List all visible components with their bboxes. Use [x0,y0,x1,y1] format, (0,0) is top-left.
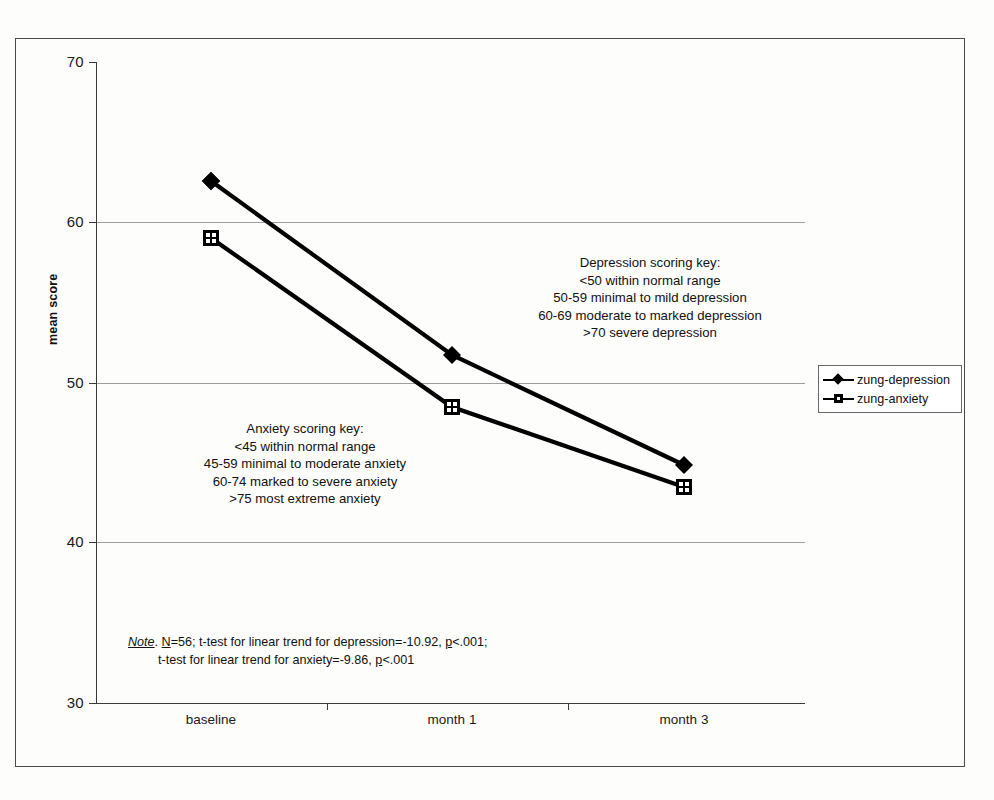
y-tick-40 [89,542,97,543]
depression-key-line-4: 60-69 moderate to marked depression [500,307,800,325]
anxiety-key-line-3: 45-59 minimal to moderate anxiety [140,455,470,473]
square-marker-icon [823,392,854,406]
note-line-1-tail: <.001; [452,635,487,649]
note-lead: Note [128,635,155,649]
gridline-60 [96,222,805,223]
depression-key-line-2: <50 within normal range [500,272,800,290]
chart-legend[interactable]: zung-depression zung-anxiety [818,365,962,413]
y-axis-title: mean score [46,225,60,345]
y-tick-60 [89,222,97,223]
legend-item-zung-anxiety[interactable]: zung-anxiety [823,389,958,408]
y-tick-label-30: 30 [38,694,84,711]
legend-label-zung-depression: zung-depression [854,373,950,387]
legend-item-zung-depression[interactable]: zung-depression [823,370,958,389]
depression-scoring-key: Depression scoring key: <50 within norma… [500,254,800,342]
note-line-1-rest: =56; t-test for linear trend for depress… [171,635,445,649]
note-line-2: t-test for linear trend for anxiety=-9.8… [128,651,488,669]
anxiety-key-line-4: 60-74 marked to severe anxiety [140,473,470,491]
note-line-2-tail: <.001 [382,653,414,667]
x-tick-boundary-1 [327,703,328,710]
gridline-50 [96,383,805,384]
statistics-note: Note. N=56; t-test for linear trend for … [128,633,488,669]
y-tick-label-40: 40 [38,533,84,550]
x-tick-boundary-2 [568,703,569,710]
y-tick-label-50: 50 [38,374,84,391]
note-line-1: Note. N=56; t-test for linear trend for … [128,633,488,651]
y-tick-50 [89,383,97,384]
depression-key-line-1: Depression scoring key: [500,254,800,272]
depression-key-line-5: >70 severe depression [500,324,800,342]
note-lead-suffix: . [155,635,159,649]
diamond-marker-icon [823,373,854,387]
y-tick-30 [89,703,97,704]
y-tick-label-70: 70 [38,53,84,70]
note-line-2-pre: t-test for linear trend for anxiety=-9.8… [158,653,375,667]
legend-label-zung-anxiety: zung-anxiety [854,392,928,406]
gridline-40 [96,542,805,543]
depression-key-line-3: 50-59 minimal to mild depression [500,289,800,307]
anxiety-key-line-2: <45 within normal range [140,438,470,456]
note-n-symbol: N [162,635,171,649]
x-tick-label-month-3: month 3 [604,712,764,727]
y-tick-label-60: 60 [38,213,84,230]
anxiety-scoring-key: Anxiety scoring key: <45 within normal r… [140,420,470,508]
x-tick-label-baseline: baseline [131,712,291,727]
anxiety-key-line-1: Anxiety scoring key: [140,420,470,438]
anxiety-key-line-5: >75 most extreme anxiety [140,490,470,508]
y-tick-70 [89,62,97,63]
x-axis-line [96,703,805,704]
x-tick-label-month-1: month 1 [372,712,532,727]
